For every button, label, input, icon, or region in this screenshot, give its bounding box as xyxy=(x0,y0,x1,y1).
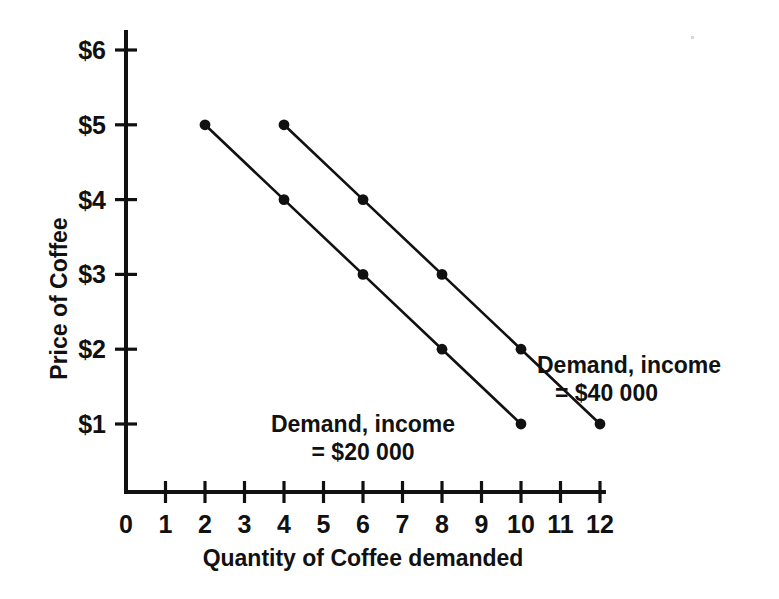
data-point xyxy=(358,194,369,205)
annotation-demand-income-40000: Demand, income = $40 000 xyxy=(537,351,772,407)
x-tick-label: 3 xyxy=(238,512,252,537)
x-tick-label: 5 xyxy=(317,512,331,537)
data-point xyxy=(516,344,527,355)
data-point xyxy=(516,419,527,430)
x-tick-label: 1 xyxy=(159,512,173,537)
y-tick-label: $1 xyxy=(6,412,106,437)
x-tick-label: 12 xyxy=(586,512,614,537)
x-tick-label: 11 xyxy=(547,512,573,537)
x-tick-label: 0 xyxy=(119,512,133,537)
annotation-low-line2: = $20 000 xyxy=(232,438,494,466)
y-tick-label: $5 xyxy=(6,112,106,137)
data-point xyxy=(437,344,448,355)
x-tick-label: 4 xyxy=(277,512,291,537)
data-point xyxy=(358,269,369,280)
annotation-high-line1: Demand, income xyxy=(537,351,772,379)
x-axis-title: Quantity of Coffee demanded xyxy=(126,545,600,572)
x-tick-label: 8 xyxy=(435,512,449,537)
annotation-demand-income-20000: Demand, income = $20 000 xyxy=(232,410,494,466)
x-tick-label: 6 xyxy=(356,512,370,537)
demand-curve-figure: $1$2$3$4$5$60123456789101112 Price of Co… xyxy=(0,0,779,599)
data-point xyxy=(279,194,290,205)
x-tick-label: 10 xyxy=(507,512,535,537)
annotation-high-line2: = $40 000 xyxy=(537,379,772,407)
annotation-low-line1: Demand, income xyxy=(232,410,494,438)
y-tick-label: $6 xyxy=(6,38,106,63)
scan-artifact-speck xyxy=(691,36,694,39)
data-point xyxy=(279,119,290,130)
data-point xyxy=(595,419,606,430)
x-tick-label: 7 xyxy=(396,512,410,537)
x-tick-label: 9 xyxy=(475,512,489,537)
x-tick-label: 2 xyxy=(198,512,212,537)
data-point xyxy=(200,119,211,130)
data-point xyxy=(437,269,448,280)
y-axis-title: Price of Coffee xyxy=(46,184,73,414)
chart-plot-area xyxy=(0,0,779,599)
